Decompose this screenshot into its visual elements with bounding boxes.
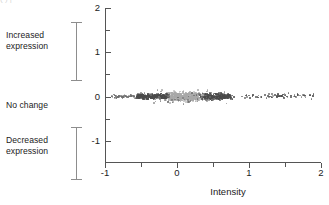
scatter-point	[313, 93, 315, 95]
y-tick-minor	[106, 74, 110, 75]
scatter-point	[233, 96, 235, 98]
scatter-point	[225, 94, 226, 95]
x-tick-minor	[213, 163, 214, 167]
scatter-point	[276, 97, 278, 99]
scatter-point	[260, 96, 262, 98]
expression-intensity-scatter-figure: ( ) | Increased expression No change Dec…	[0, 0, 329, 205]
scatter-point	[288, 92, 290, 94]
scatter-point	[174, 96, 176, 98]
y-tick-label: 0	[78, 91, 100, 102]
cropped-caption-artifact: ( ) |	[0, 0, 329, 4]
annotation-label-no-change: No change	[6, 100, 68, 111]
scatter-point	[266, 97, 268, 99]
annotation-label-increased-expression: Increased expression	[6, 30, 68, 51]
y-tick-major	[106, 52, 111, 53]
y-tick-major	[106, 97, 111, 98]
y-tick-label: 2	[78, 2, 100, 13]
y-tick-label: 1	[78, 46, 100, 57]
scatter-point	[249, 97, 251, 99]
scatter-point	[302, 94, 304, 96]
scatter-point	[213, 99, 214, 100]
x-tick-label: 1	[237, 167, 261, 178]
y-axis-line	[105, 8, 106, 163]
scatter-point	[197, 98, 198, 99]
scatter-point	[227, 97, 229, 99]
scatter-point	[191, 95, 193, 97]
scatter-point	[222, 96, 224, 98]
plot-area: -1012 -1012	[105, 8, 321, 163]
x-tick-label: -1	[93, 167, 117, 178]
y-tick-major	[106, 8, 111, 9]
bracket-stem	[76, 127, 77, 180]
scatter-point	[264, 94, 266, 96]
scatter-point	[193, 95, 194, 96]
scatter-point	[257, 97, 259, 99]
scatter-point	[190, 98, 192, 100]
scatter-point	[305, 96, 307, 98]
scatter-point	[161, 89, 163, 91]
scatter-point	[198, 93, 200, 95]
scatter-point	[245, 95, 247, 97]
scatter-point	[278, 96, 280, 98]
scatter-point	[143, 98, 145, 100]
scatter-point	[204, 93, 206, 95]
scatter-point	[197, 101, 198, 102]
scatter-point	[287, 97, 289, 99]
bracket-stem	[76, 22, 77, 81]
scatter-point	[133, 95, 134, 96]
scatter-point	[220, 97, 222, 99]
x-tick-minor	[141, 163, 142, 167]
y-tick-label: -1	[78, 135, 100, 146]
scatter-point	[212, 100, 213, 101]
scatter-point	[169, 102, 171, 104]
scatter-point	[312, 95, 314, 97]
scatter-point	[148, 96, 150, 98]
cropped-caption-text: ( ) |	[0, 0, 12, 3]
scatter-point	[140, 95, 142, 97]
scatter-point	[290, 96, 292, 98]
scatter-point	[295, 96, 297, 98]
scatter-point	[160, 91, 161, 92]
scatter-point	[138, 98, 140, 100]
scatter-point	[147, 98, 149, 100]
bracket-cap-bottom	[71, 179, 82, 180]
scatter-point	[130, 95, 132, 97]
scatter-point	[311, 98, 313, 100]
scatter-point	[309, 94, 311, 96]
scatter-point	[188, 101, 189, 102]
scatter-point	[258, 95, 260, 97]
scatter-point	[224, 91, 225, 92]
scatter-point	[201, 96, 202, 97]
scatter-point	[185, 93, 187, 95]
scatter-point	[219, 99, 221, 101]
scatter-point	[152, 96, 154, 98]
scatter-point	[120, 96, 121, 97]
scatter-point	[128, 95, 129, 96]
annotation-label-decreased-expression: Decreased expression	[6, 135, 68, 156]
scatter-point	[280, 95, 282, 97]
scatter-point	[160, 100, 161, 101]
scatter-point	[191, 92, 192, 93]
x-tick-label: 2	[309, 167, 329, 178]
scatter-point	[157, 89, 158, 90]
scatter-point	[202, 100, 204, 102]
scatter-point	[155, 101, 156, 102]
y-tick-major	[106, 141, 111, 142]
scatter-point	[150, 98, 152, 100]
y-tick-minor	[106, 30, 110, 31]
x-tick-label: 0	[165, 167, 189, 178]
scatter-point	[165, 95, 166, 96]
scatter-point	[111, 96, 112, 97]
scatter-point	[183, 103, 184, 104]
scatter-point	[216, 96, 218, 98]
scatter-point	[290, 95, 292, 97]
scatter-point	[208, 98, 209, 99]
x-axis-title: Intensity	[183, 186, 273, 197]
y-tick-minor	[106, 119, 110, 120]
scatter-point	[167, 101, 168, 102]
scatter-point	[228, 95, 230, 97]
scatter-point	[271, 96, 273, 98]
scatter-point	[127, 97, 128, 98]
scatter-point	[244, 97, 246, 99]
scatter-point	[226, 103, 227, 104]
